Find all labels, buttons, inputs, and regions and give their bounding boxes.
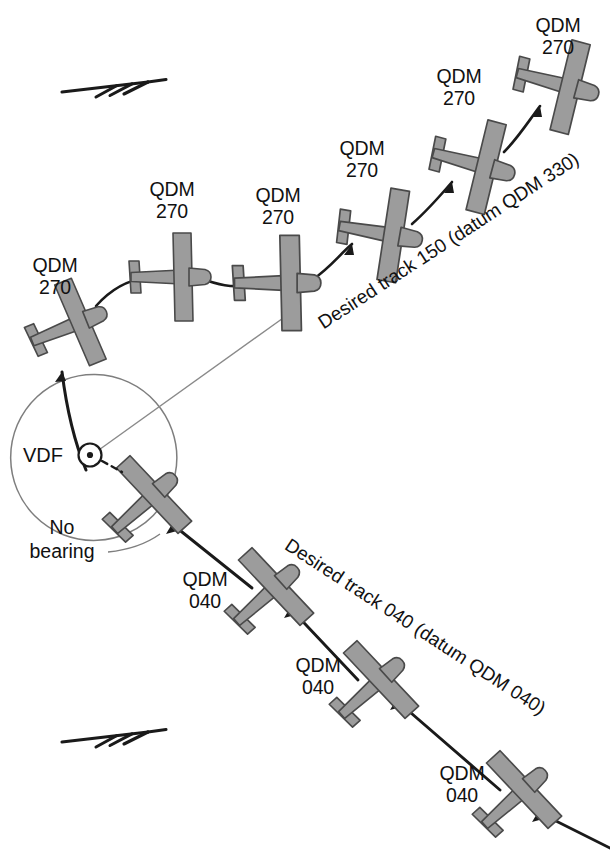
qdm-label-upper-1-line2: 270 [39, 276, 71, 298]
qdm-label-upper-1-line1: QDM [33, 254, 78, 276]
qdm-label-upper-3-line1: QDM [256, 184, 301, 206]
qdm-label-upper-6-line2: 270 [542, 36, 574, 58]
qdm-label-lower-2-line2: 040 [302, 676, 334, 698]
qdm-label-upper-2-line1: QDM [150, 178, 195, 200]
qdm-label-upper-2-line2: 270 [156, 200, 188, 222]
no-bearing-label-line1: No [50, 516, 75, 538]
station-center-dot-icon [87, 452, 93, 458]
qdm-label-lower-2-line1: QDM [296, 654, 341, 676]
qdm-label-upper-3-line2: 270 [262, 206, 294, 228]
vdf-station-label: VDF [23, 444, 63, 466]
vdf-navigation-diagram: VDF No bearing QDM 270 QDM 270 QDM 270 Q… [0, 0, 610, 852]
diagram-background [0, 0, 610, 852]
qdm-label-upper-5-line2: 270 [443, 87, 475, 109]
qdm-label-lower-3-line2: 040 [446, 784, 478, 806]
qdm-label-upper-4-line2: 270 [346, 159, 378, 181]
qdm-label-lower-1-line2: 040 [189, 590, 221, 612]
diagram-canvas: VDF No bearing QDM 270 QDM 270 QDM 270 Q… [0, 0, 610, 852]
vdf-station[interactable]: VDF [23, 444, 102, 467]
qdm-label-lower-1-line1: QDM [183, 568, 228, 590]
no-bearing-label-line2: bearing [29, 540, 94, 562]
qdm-label-lower-3-line1: QDM [440, 762, 485, 784]
qdm-label-upper-5-line1: QDM [437, 65, 482, 87]
qdm-label-upper-4-line1: QDM [340, 137, 385, 159]
qdm-label-upper-6-line1: QDM [536, 14, 581, 36]
